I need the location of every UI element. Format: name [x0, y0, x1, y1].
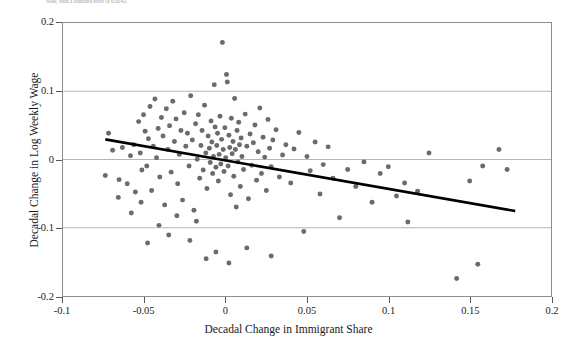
data-point: [187, 164, 192, 169]
data-point: [405, 219, 410, 224]
x-tick-label: 0: [195, 305, 255, 316]
data-point: [183, 144, 188, 149]
x-tick-mark: [552, 297, 553, 303]
y-tick-mark: [56, 91, 62, 92]
data-point: [277, 174, 282, 179]
data-point: [224, 72, 229, 77]
data-point: [345, 167, 350, 172]
y-tick-label: -0.2: [8, 292, 54, 302]
data-point: [265, 117, 270, 122]
data-point: [505, 167, 510, 172]
data-point: [210, 171, 215, 176]
data-point: [169, 170, 174, 175]
data-point: [337, 215, 342, 220]
data-point: [106, 131, 111, 136]
x-tick-mark: [307, 297, 308, 303]
data-point: [193, 121, 198, 126]
data-point: [166, 232, 171, 237]
data-point: [291, 146, 296, 151]
data-point: [220, 40, 225, 45]
data-point: [238, 184, 243, 189]
x-tick-mark: [470, 297, 471, 303]
data-point: [246, 196, 251, 201]
data-point: [146, 136, 151, 141]
data-point: [226, 164, 231, 169]
data-point: [257, 105, 262, 110]
data-point: [191, 208, 196, 213]
data-point: [156, 126, 161, 131]
regression-fit-line: [105, 139, 515, 211]
data-point: [217, 152, 222, 157]
data-point: [139, 200, 144, 205]
data-point: [209, 140, 214, 145]
x-tick-mark: [62, 297, 63, 303]
data-point: [217, 114, 222, 119]
data-point: [496, 147, 501, 152]
data-point: [283, 142, 288, 147]
data-point: [209, 118, 214, 123]
data-point: [167, 123, 172, 128]
data-point: [174, 213, 179, 218]
data-point: [222, 169, 227, 174]
data-point: [164, 106, 169, 111]
data-point: [187, 238, 192, 243]
data-point: [207, 146, 212, 151]
scatter-figure: Note, with a standard error of 0.0142. -…: [0, 0, 577, 344]
data-point: [274, 127, 279, 132]
x-tick-label: -0.1: [32, 305, 92, 316]
data-point: [178, 128, 183, 133]
data-point: [361, 159, 366, 164]
data-point: [216, 179, 221, 184]
data-point: [141, 112, 146, 117]
data-point: [188, 93, 193, 98]
data-point: [228, 192, 233, 197]
data-point: [254, 178, 259, 183]
data-point: [125, 181, 130, 186]
data-point: [214, 143, 219, 148]
data-point: [203, 151, 208, 156]
data-point: [301, 229, 306, 234]
data-point: [212, 82, 217, 87]
data-point: [204, 256, 209, 261]
x-tick-mark: [225, 297, 226, 303]
data-point: [222, 125, 227, 130]
x-tick-label: 0.2: [522, 305, 577, 316]
data-point: [185, 131, 190, 136]
x-axis-title: Decadal Change in Immigrant Share: [0, 323, 577, 335]
y-tick-mark: [56, 22, 62, 23]
data-point: [162, 202, 167, 207]
data-point: [467, 179, 472, 184]
data-point: [234, 204, 239, 209]
data-point: [237, 142, 242, 147]
plot-area: [62, 22, 552, 297]
data-point: [128, 153, 133, 158]
data-point: [256, 149, 261, 154]
data-point: [226, 133, 231, 138]
data-point: [244, 144, 249, 149]
data-point: [227, 145, 232, 150]
data-point: [194, 219, 199, 224]
y-axis-title: Decadal Change in Log Weekly Wage: [28, 40, 40, 280]
data-point: [326, 144, 331, 149]
data-point: [196, 112, 201, 117]
data-point: [269, 254, 274, 259]
x-tick-label: -0.05: [114, 305, 174, 316]
data-point: [230, 151, 235, 156]
data-point: [475, 262, 480, 267]
data-point: [251, 140, 256, 145]
data-point: [308, 168, 313, 173]
data-point: [261, 135, 266, 140]
data-point: [239, 136, 244, 141]
data-point: [394, 194, 399, 199]
data-point: [296, 130, 301, 135]
data-point: [480, 164, 485, 169]
data-point: [378, 171, 383, 176]
data-point: [133, 189, 138, 194]
data-point: [197, 176, 202, 181]
data-point: [152, 97, 157, 102]
caption-fragment-text: Note, with a standard error of 0.0142.: [46, 0, 276, 5]
x-tick-label: 0.15: [440, 305, 500, 316]
data-point: [159, 115, 164, 120]
data-point: [154, 155, 159, 160]
data-point: [236, 120, 241, 125]
